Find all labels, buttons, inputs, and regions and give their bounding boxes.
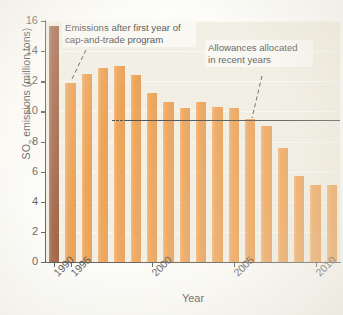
annotation-cap-and-trade-line1: Emissions after first year of (65, 22, 193, 34)
y-tick-0 (41, 262, 45, 263)
bar-2001 (163, 102, 173, 262)
leader-line-allowances (244, 74, 272, 120)
y-tick-12 (41, 81, 45, 82)
bar-2010 (310, 185, 320, 262)
bar-2009 (294, 176, 304, 262)
x-axis-title: Year (45, 292, 341, 304)
y-tick-4 (41, 202, 45, 203)
bar-2000 (147, 93, 157, 262)
y-tick-16 (41, 21, 45, 22)
bar-2008 (278, 148, 288, 262)
annotation-allowances-line1: Allowances allocated (208, 42, 310, 54)
bar-2003 (196, 102, 206, 262)
bar-1997 (98, 68, 108, 262)
bar-2002 (180, 108, 190, 262)
bar-1998 (114, 66, 124, 262)
annotation-cap-and-trade: Emissions after first year of cap-and-tr… (62, 20, 196, 47)
so2-emissions-chart-figure: 0246810121416 19901995200020052010 SO2 e… (0, 0, 343, 315)
allowance-cap-line (127, 120, 340, 121)
annotation-cap-and-trade-line2: cap-and-trade program (65, 34, 193, 46)
bar-2006 (245, 119, 255, 262)
bar-2004 (212, 107, 222, 262)
bar-2011 (327, 185, 337, 262)
annotation-allowances: Allowances allocated in recent years (205, 40, 313, 67)
y-tick-8 (41, 142, 45, 143)
bar-1990 (49, 26, 59, 262)
bar-2007 (261, 126, 271, 262)
bar-2005 (229, 108, 239, 262)
y-tick-2 (41, 232, 45, 233)
bar-1999 (131, 75, 141, 262)
allowance-cap-line-dashed-lead (112, 120, 127, 121)
bar-1996 (82, 74, 92, 262)
y-axis-line (45, 20, 46, 263)
leader-line-cap-and-trade (62, 48, 94, 82)
y-tick-14 (41, 51, 45, 52)
bar-1995 (65, 83, 75, 262)
y-tick-10 (41, 111, 45, 112)
annotation-allowances-line2: in recent years (208, 54, 310, 66)
y-axis-title: SO2 emissions (million tons) (20, 14, 35, 174)
y-tick-6 (41, 172, 45, 173)
y-tick-label-0: 0 (32, 255, 38, 267)
y-tick-label-2: 2 (32, 225, 38, 237)
y-tick-label-4: 4 (32, 195, 38, 207)
